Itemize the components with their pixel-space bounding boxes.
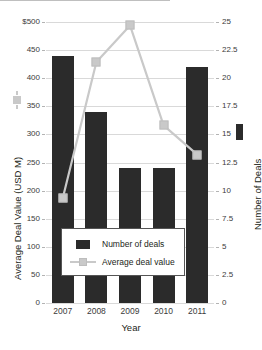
line-marker-icon [13,96,21,104]
y-axis-left-tick-mark [42,191,45,192]
line-marker [193,150,202,159]
y-axis-left-tick-mark [42,219,45,220]
y-axis-right-tick-label: 17.5 [222,102,238,110]
y-axis-right-tick-label: 2.5 [222,271,233,279]
x-axis-line [0,0,170,1]
y-axis-right-tick-mark [216,303,219,304]
y-axis-right-tick-label: 20 [222,74,231,82]
y-axis-right-tick-label: 5 [222,243,226,251]
x-axis-title: Year [0,322,262,333]
line-marker [126,21,135,30]
y-axis-right-tick-mark [216,78,219,79]
line-marker [58,193,67,202]
y-axis-right-tick-mark [216,22,219,23]
y-axis-left-tick-mark [42,50,45,51]
y-axis-right-tick-mark [216,247,219,248]
y-axis-left-tick-label: 300 [0,130,40,138]
y-axis-right-title: Number of Deals [252,159,262,230]
gridline [46,303,214,304]
chart-container: 050100150200250300350400450$500 02.557.5… [0,0,262,350]
y-axis-left-tick-mark [42,134,45,135]
y-axis-left-tick-mark [42,247,45,248]
bar-swatch-icon [68,240,98,249]
y-axis-right-tick-mark [216,163,219,164]
y-axis-left-tick-mark [42,106,45,107]
y-axis-left-tick-mark [42,303,45,304]
y-axis-left-title: Average Deal Value (USD M) [12,157,23,280]
y-axis-right-tick-label: 22.5 [222,46,238,54]
y-axis-right-tick-label: 12.5 [222,159,238,167]
y-axis-left-tick-label: $500 [0,18,40,26]
y-axis-right-tick-mark [216,219,219,220]
legend-label-line: Average deal value [102,257,175,267]
legend-item-line: Average deal value [68,253,178,271]
y-axis-right-tick-label: 10 [222,187,231,195]
y-axis-right-tick-label: 0 [222,299,226,307]
y-axis-right-tick-mark [216,134,219,135]
y-axis-right-tick-mark [216,50,219,51]
bar-swatch-icon [236,124,243,140]
y-axis-right-tick-label: 7.5 [222,215,233,223]
y-axis-left-tick-label: 0 [0,299,40,307]
legend-item-bars: Number of deals [68,235,178,253]
y-axis-right-tick-label: 15 [222,130,231,138]
y-axis-right-tick-mark [216,191,219,192]
legend: Number of deals Average deal value [61,228,185,276]
y-axis-left-tick-mark [42,275,45,276]
y-axis-right-tick-mark [216,106,219,107]
y-axis-left-tick-mark [42,163,45,164]
line-marker [92,57,101,66]
line-marker [159,121,168,130]
y-axis-left-tick-mark [42,78,45,79]
line-marker-icon [68,258,98,266]
y-axis-right-tick-mark [216,275,219,276]
x-axis-tick-label: 2011 [177,306,217,316]
y-axis-left-tick-mark [42,22,45,23]
legend-label-bars: Number of deals [102,239,164,249]
y-axis-left-tick-label: 400 [0,74,40,82]
y-axis-right-tick-label: 25 [222,18,231,26]
y-axis-left-tick-label: 450 [0,46,40,54]
